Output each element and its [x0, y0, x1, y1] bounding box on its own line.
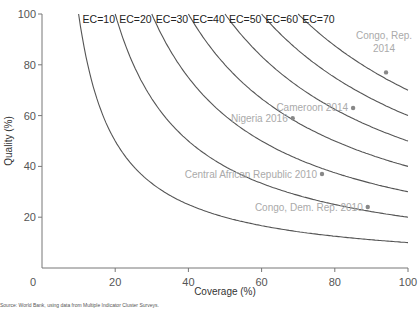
data-point — [291, 116, 295, 120]
x-tick-label: 0 — [30, 276, 36, 288]
ec-label: EC=60 — [266, 13, 299, 25]
x-tick-label: 100 — [399, 276, 417, 288]
x-tick-label: 20 — [109, 276, 121, 288]
data-point — [320, 172, 324, 176]
data-point — [384, 70, 388, 74]
x-tick-label: 40 — [182, 276, 194, 288]
point-label: Congo, Dem. Rep. 2010 — [255, 202, 363, 213]
ec-label: EC=10 — [83, 13, 116, 25]
point-label: 2014 — [373, 43, 396, 54]
y-axis-label: Quality (%) — [3, 116, 14, 165]
x-axis-label: Coverage (%) — [194, 286, 256, 297]
ec-curve — [262, 14, 408, 116]
y-tick-label: 80 — [24, 59, 36, 71]
ec-label: EC=40 — [192, 13, 225, 25]
effective-coverage-chart: EC=10EC=20EC=30EC=40EC=50EC=60EC=70 0204… — [0, 0, 418, 300]
ec-labels: EC=10EC=20EC=30EC=40EC=50EC=60EC=70 — [83, 13, 335, 25]
ticks: 02040608010020406080100 — [18, 8, 418, 288]
x-tick-label: 80 — [329, 276, 341, 288]
ec-label: EC=70 — [302, 13, 335, 25]
ec-label: EC=20 — [119, 13, 152, 25]
data-point — [366, 205, 370, 209]
x-tick-label: 60 — [255, 276, 267, 288]
y-tick-label: 40 — [24, 160, 36, 172]
source-note: Source: World Bank, using data from Mult… — [0, 302, 159, 308]
data-point — [351, 106, 355, 110]
y-tick-label: 100 — [18, 8, 36, 20]
y-tick-label: 60 — [24, 110, 36, 122]
point-label: Central African Republic 2010 — [185, 169, 318, 180]
ec-label: EC=50 — [229, 13, 262, 25]
axes — [42, 14, 408, 268]
y-tick-label: 20 — [24, 211, 36, 223]
point-label: Congo, Rep. — [356, 30, 412, 41]
point-label: Nigeria 2016 — [231, 113, 288, 124]
ec-label: EC=30 — [156, 13, 189, 25]
